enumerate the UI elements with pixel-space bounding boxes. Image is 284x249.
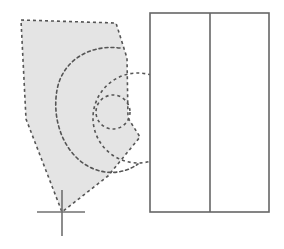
shaded-region (21, 20, 140, 212)
drawing-canvas (0, 0, 284, 249)
technical-drawing (0, 0, 284, 249)
